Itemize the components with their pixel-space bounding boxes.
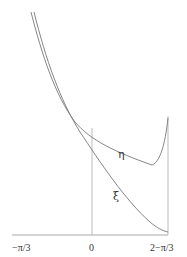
curve-xi — [34, 12, 168, 232]
plot-area: η ξ −π/3 0 2−π/3 — [0, 0, 187, 257]
tick-label-neg-pi-3: −π/3 — [12, 242, 30, 253]
label-eta: η — [118, 148, 125, 161]
tick-label-zero: 0 — [89, 242, 94, 253]
tick-label-2-minus-pi-3: 2−π/3 — [150, 242, 173, 253]
label-xi: ξ — [113, 190, 119, 203]
curve-eta — [31, 12, 168, 165]
